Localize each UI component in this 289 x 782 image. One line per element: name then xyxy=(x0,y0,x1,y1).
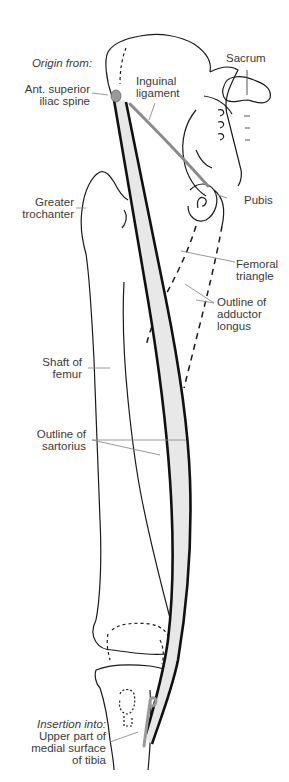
label-line: Shaft of xyxy=(20,356,82,368)
label-line: Ant. superior xyxy=(10,83,90,95)
sacral-tick-marks xyxy=(244,70,250,140)
label-femoral-triangle: Femoral triangle xyxy=(236,258,278,282)
origin-heading-text: Origin from: xyxy=(20,57,92,69)
label-line: Femoral xyxy=(236,258,278,270)
label-line: adductor xyxy=(217,308,266,320)
insertion-heading-text: Insertion into: xyxy=(20,718,106,730)
insertion-heading: Insertion into: xyxy=(20,718,106,730)
label-line: trochanter xyxy=(4,208,74,220)
label-pubis: Pubis xyxy=(244,194,273,206)
label-line: Outline of xyxy=(20,428,86,440)
sartorius-muscle xyxy=(114,98,191,744)
label-line: femur xyxy=(20,368,82,380)
label-greater-trochanter: Greater trochanter xyxy=(4,196,74,220)
label-line: Sacrum xyxy=(226,52,266,64)
label-line: Greater xyxy=(4,196,74,208)
leader-lines xyxy=(76,93,235,742)
label-line: longus xyxy=(217,320,266,332)
label-outline-of-sartorius: Outline of sartorius xyxy=(20,428,86,452)
origin-attachment xyxy=(111,90,121,102)
label-line: ligament xyxy=(136,87,179,99)
label-shaft-of-femur: Shaft of femur xyxy=(20,356,82,380)
label-line: Inguinal xyxy=(136,75,179,87)
label-line: Outline of xyxy=(217,296,266,308)
label-line: medial surface xyxy=(10,742,106,754)
label-line: Pubis xyxy=(244,194,273,206)
sartorius-diagram xyxy=(0,0,289,782)
label-insertion-tibia: Upper part of medial surface of tibia xyxy=(10,730,106,766)
label-line: of tibia xyxy=(10,754,106,766)
origin-heading: Origin from: xyxy=(20,57,92,69)
label-line: triangle xyxy=(236,270,278,282)
label-line: Upper part of xyxy=(10,730,106,742)
label-line: iliac spine xyxy=(10,95,90,107)
label-ant-superior-iliac-spine: Ant. superior iliac spine xyxy=(10,83,90,107)
label-inguinal-ligament: Inguinal ligament xyxy=(136,75,179,99)
label-adductor-longus: Outline of adductor longus xyxy=(217,296,266,332)
label-line: sartorius xyxy=(20,440,86,452)
label-sacrum: Sacrum xyxy=(226,52,266,64)
